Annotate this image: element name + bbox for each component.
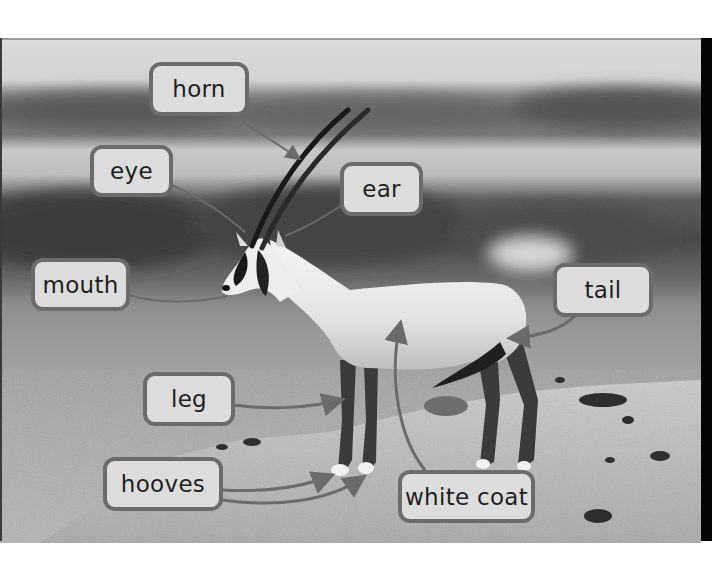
label-eye: eye <box>90 145 173 197</box>
label-mouth: mouth <box>31 258 130 311</box>
label-tail: tail <box>553 263 653 317</box>
photo-right-border <box>701 38 712 541</box>
label-hooves-text: hooves <box>121 471 205 497</box>
label-white-coat-text: white coat <box>405 484 528 510</box>
label-leg-text: leg <box>171 386 207 412</box>
label-mouth-text: mouth <box>42 272 118 298</box>
label-hooves: hooves <box>103 457 223 511</box>
label-ear-text: ear <box>362 176 401 202</box>
label-tail-text: tail <box>584 277 621 303</box>
label-ear: ear <box>340 162 423 216</box>
label-leg: leg <box>143 372 235 426</box>
photo-left-edge <box>0 38 2 541</box>
label-white-coat: white coat <box>398 470 535 523</box>
label-eye-text: eye <box>110 158 153 184</box>
label-horn-text: horn <box>172 76 225 102</box>
label-horn: horn <box>149 62 249 116</box>
